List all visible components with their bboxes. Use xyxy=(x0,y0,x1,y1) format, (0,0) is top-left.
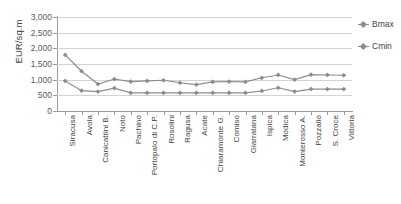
y-axis-tick-mark xyxy=(53,33,57,34)
x-axis-tick-mark xyxy=(98,111,99,115)
legend-item-cmin[interactable]: Cmin xyxy=(358,35,401,57)
x-axis-tick-label: Monterosso A. xyxy=(298,115,307,167)
x-axis-tick-mark xyxy=(114,111,115,115)
data-point xyxy=(227,79,232,84)
chart-legend: BmaxCmin xyxy=(358,13,401,57)
data-point xyxy=(194,90,199,95)
x-axis-tick-label: Chiaramonte G. xyxy=(216,115,225,172)
x-axis-tick-mark xyxy=(213,111,214,115)
x-axis-tick-label: Comiso xyxy=(232,115,241,142)
x-axis-tick-label: Pachino xyxy=(134,115,143,144)
data-point xyxy=(292,77,297,82)
data-point xyxy=(276,85,281,90)
x-axis-tick-label: Canicattini B. xyxy=(101,115,110,163)
chart-container: EUR/sq.m 3,0002,5002,0001,5001,0005000 S… xyxy=(0,0,401,204)
x-axis-tick-mark xyxy=(229,111,230,115)
x-axis-tick-mark xyxy=(164,111,165,115)
data-point xyxy=(259,75,264,80)
x-axis-tick-mark xyxy=(295,111,296,115)
data-point xyxy=(210,90,215,95)
x-axis-tick-mark xyxy=(147,111,148,115)
x-axis-tick-label: S. Croce xyxy=(331,115,340,147)
x-axis-tick-label: Portopalo di C.P. xyxy=(150,115,159,175)
x-axis-tick-label: Siracusa xyxy=(68,115,77,147)
y-axis-tick-mark xyxy=(53,17,57,18)
data-point xyxy=(309,72,314,77)
y-axis-tick-mark xyxy=(53,95,57,96)
x-axis-tick-label: Rosolini xyxy=(167,115,176,144)
x-axis-tick-mark xyxy=(131,111,132,115)
data-point xyxy=(243,79,248,84)
series-layer xyxy=(0,0,401,204)
data-point xyxy=(161,90,166,95)
data-point xyxy=(227,90,232,95)
data-point xyxy=(309,87,314,92)
legend-label: Bmax xyxy=(372,19,394,29)
legend-marker-icon xyxy=(358,20,369,29)
data-point xyxy=(325,73,330,78)
y-axis-tick-mark xyxy=(53,80,57,81)
data-point xyxy=(178,80,183,85)
x-axis-tick-label: Acate xyxy=(200,115,209,136)
data-point xyxy=(145,79,150,84)
x-axis-tick-label: Modica xyxy=(281,115,290,141)
data-point xyxy=(96,89,101,94)
x-axis-tick-label: Giarratana xyxy=(249,115,258,153)
x-axis-tick-label: Ragusa xyxy=(183,115,192,143)
data-point xyxy=(325,87,330,92)
series-line-bmax xyxy=(65,55,344,85)
x-axis-tick-mark xyxy=(344,111,345,115)
y-axis-tick-mark xyxy=(53,48,57,49)
x-axis-tick-mark xyxy=(180,111,181,115)
data-point xyxy=(128,90,133,95)
x-axis-tick-label: Vittoria xyxy=(347,115,356,140)
legend-item-bmax[interactable]: Bmax xyxy=(358,13,401,35)
x-axis-tick-label: Avola xyxy=(85,115,94,135)
x-axis-tick-mark xyxy=(82,111,83,115)
y-axis-tick-mark xyxy=(53,64,57,65)
x-axis-tick-mark xyxy=(196,111,197,115)
data-point xyxy=(341,73,346,78)
data-point xyxy=(112,86,117,91)
data-point xyxy=(63,79,68,84)
x-axis-tick-mark xyxy=(327,111,328,115)
data-point xyxy=(292,89,297,94)
data-point xyxy=(210,79,215,84)
data-point xyxy=(259,89,264,94)
y-axis-tick-mark xyxy=(53,111,57,112)
legend-label: Cmin xyxy=(372,41,392,51)
data-point xyxy=(178,90,183,95)
x-axis-tick-mark xyxy=(311,111,312,115)
data-point xyxy=(276,73,281,78)
x-axis-tick-label: Ispica xyxy=(265,115,274,136)
data-point xyxy=(128,79,133,84)
data-point xyxy=(243,90,248,95)
data-point xyxy=(161,78,166,83)
data-point xyxy=(79,88,84,93)
legend-marker-icon xyxy=(358,42,369,51)
x-axis-tick-mark xyxy=(262,111,263,115)
x-axis-tick-label: Pozzallo xyxy=(314,115,323,146)
data-point xyxy=(194,82,199,87)
x-axis-tick-mark xyxy=(65,111,66,115)
x-axis-tick-label: Noto xyxy=(118,115,127,132)
data-point xyxy=(112,77,117,82)
data-point xyxy=(145,90,150,95)
x-axis-tick-mark xyxy=(246,111,247,115)
x-axis-tick-mark xyxy=(278,111,279,115)
data-point xyxy=(341,87,346,92)
